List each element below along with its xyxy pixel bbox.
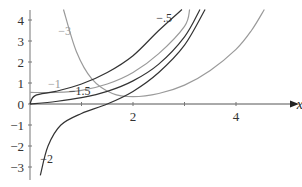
- y-tick-label: 2: [18, 55, 25, 70]
- curve-label: −1.5: [69, 84, 91, 98]
- curve-label: −.5: [156, 11, 172, 25]
- curve-label: −3: [58, 24, 71, 38]
- y-tick-label: −3: [10, 160, 24, 175]
- y-tick-label: 1: [18, 76, 25, 91]
- curve-labels: −3−1−1.5−.5−2: [40, 11, 172, 166]
- y-tick-label: 3: [18, 34, 25, 49]
- x-axis-label: x: [296, 97, 302, 112]
- y-tick-label: 0: [18, 97, 25, 112]
- y-tick-label: 4: [18, 13, 25, 28]
- y-tick-label: −1: [10, 118, 24, 133]
- curve-label: −1: [48, 77, 61, 91]
- y-ticks: −3−2−101234: [10, 13, 32, 175]
- x-tick-label: 4: [233, 109, 240, 124]
- y-tick-label: −2: [10, 139, 24, 154]
- curve-label: −2: [40, 152, 53, 166]
- chart: 24 −3−2−101234 −3−1−1.5−.5−2 x: [0, 0, 302, 187]
- x-tick-label: 2: [130, 109, 137, 124]
